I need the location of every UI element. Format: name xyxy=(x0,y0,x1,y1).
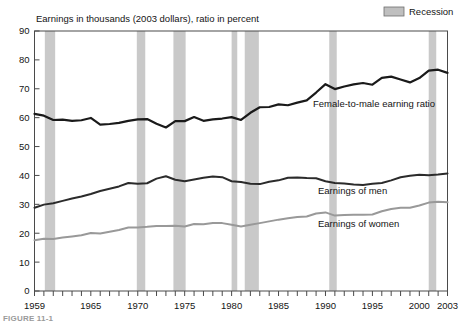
x-tick-label-1990: 1990 xyxy=(315,300,336,311)
earnings-chart: 0102030405060708090 19591965197019751980… xyxy=(0,0,472,322)
y-tick-label-60: 60 xyxy=(19,112,30,123)
figure-container: 0102030405060708090 19591965197019751980… xyxy=(0,0,472,322)
legend-recession: Recession xyxy=(384,6,453,17)
axis-title: Earnings in thousands (2003 dollars), ra… xyxy=(36,13,259,24)
y-tick-label-20: 20 xyxy=(19,228,30,239)
legend-recession-label: Recession xyxy=(409,6,453,17)
y-tick-label-70: 70 xyxy=(19,83,30,94)
recession-band-2 xyxy=(173,31,185,291)
x-tick-label-1965: 1965 xyxy=(80,300,101,311)
x-tick-label-1975: 1975 xyxy=(174,300,195,311)
y-tick-label-90: 90 xyxy=(19,25,30,36)
y-tick-label-50: 50 xyxy=(19,141,30,152)
x-tick-label-1970: 1970 xyxy=(127,300,148,311)
annotation-women-label: Earnings of women xyxy=(318,218,399,229)
recession-band-1 xyxy=(137,31,145,291)
recession-band-0 xyxy=(45,31,55,291)
y-tick-label-0: 0 xyxy=(24,285,29,296)
x-tick-label-2003: 2003 xyxy=(437,300,458,311)
x-tick-label-2000: 2000 xyxy=(409,300,430,311)
data-series-group xyxy=(35,70,448,240)
x-axis-ticks-group: 1959196519701975198019851990199520002003 xyxy=(24,291,458,311)
recession-bands-group xyxy=(45,31,436,291)
recession-band-5 xyxy=(329,31,337,291)
y-tick-label-40: 40 xyxy=(19,170,30,181)
x-tick-label-1959: 1959 xyxy=(24,300,45,311)
x-tick-label-1980: 1980 xyxy=(221,300,242,311)
y-tick-label-30: 30 xyxy=(19,199,30,210)
annotation-ratio-label: Female-to-male earning ratio xyxy=(313,98,435,109)
y-axis-ticks-group: 0102030405060708090 xyxy=(19,25,40,296)
recession-band-3 xyxy=(232,31,238,291)
x-tick-label-1995: 1995 xyxy=(362,300,383,311)
recession-swatch-icon xyxy=(384,7,404,16)
recession-band-4 xyxy=(245,31,259,291)
y-tick-label-10: 10 xyxy=(19,257,30,268)
annotation-men-label: Earnings of men xyxy=(318,185,387,196)
figure-caption-text: FIGURE 11-1 xyxy=(0,314,472,322)
figure-caption: FIGURE 11-1 xyxy=(0,314,472,322)
y-tick-label-80: 80 xyxy=(19,54,30,65)
plot-frame-group xyxy=(35,31,448,291)
x-tick-label-1985: 1985 xyxy=(268,300,289,311)
